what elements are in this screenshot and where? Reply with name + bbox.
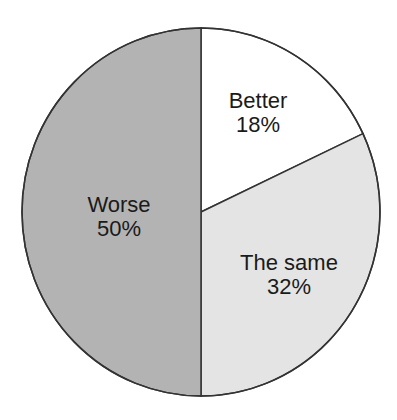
label-better-name: Better [229,88,288,113]
label-same-name: The same [240,250,338,275]
label-worse-name: Worse [87,192,150,217]
label-better-pct: 18% [236,112,280,137]
label-better: Better 18% [229,88,288,137]
pie-slices [22,28,380,396]
pie-chart: Better 18% The same 32% Worse 50% [0,0,397,420]
label-worse-pct: 50% [97,216,141,241]
label-same-pct: 32% [267,274,311,299]
